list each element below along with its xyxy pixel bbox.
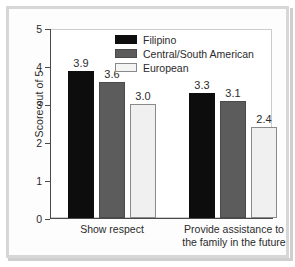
legend-label-filipino: Filipino — [143, 34, 176, 46]
bar-value-g1-central-south-american: 3.1 — [220, 87, 246, 99]
bar-g0-filipino — [68, 71, 94, 218]
bar-g1-european — [251, 127, 277, 218]
x-axis-group-label-1: Provide assistance to the family in the … — [175, 223, 293, 249]
bar-value-g0-filipino: 3.9 — [68, 57, 94, 69]
x-axis-group-label-0: Show respect — [54, 223, 170, 236]
bar-g1-filipino — [189, 93, 215, 218]
legend-swatch-european-icon — [115, 63, 137, 72]
legend: Filipino Central/South American European — [115, 33, 254, 75]
y-axis-tick-4: 4 — [12, 61, 50, 73]
figure-frame: Score out of 5 0 1 2 3 4 5 3.9 — [0, 0, 295, 267]
y-axis-tick-0: 0 — [12, 213, 50, 225]
legend-label-european: European — [143, 62, 189, 74]
bar-chart: Score out of 5 0 1 2 3 4 5 3.9 — [12, 12, 283, 252]
y-axis-tick-3: 3 — [12, 99, 50, 111]
legend-item-filipino: Filipino — [115, 33, 254, 46]
bar-value-g0-european: 3.0 — [130, 90, 156, 102]
legend-item-european: European — [115, 61, 254, 74]
y-axis-tick-label-1: 1 — [18, 175, 42, 187]
y-axis-tick-label-0: 0 — [18, 213, 42, 225]
bar-value-g1-european: 2.4 — [251, 113, 277, 125]
x-axis-line — [50, 218, 273, 219]
frame-shadow-bottom — [8, 258, 293, 261]
y-axis-line — [50, 29, 51, 219]
legend-label-central-south-american: Central/South American — [143, 48, 254, 60]
bar-g1-central-south-american — [220, 101, 246, 218]
bar-g0-european — [130, 104, 156, 218]
y-axis-tick-1: 1 — [12, 175, 50, 187]
legend-swatch-central-south-american-icon — [115, 49, 137, 58]
bar-g0-central-south-american — [99, 82, 125, 218]
legend-swatch-filipino-icon — [115, 35, 137, 44]
y-axis-tick-label-4: 4 — [18, 61, 42, 73]
y-axis-tick-mark-1 — [45, 181, 50, 182]
y-axis-tick-label-5: 5 — [18, 23, 42, 35]
y-axis-tick-mark-4 — [45, 67, 50, 68]
y-axis-tick-mark-2 — [45, 143, 50, 144]
y-axis-tick-2: 2 — [12, 137, 50, 149]
y-axis-tick-label-2: 2 — [18, 137, 42, 149]
y-axis-tick-mark-0 — [45, 219, 50, 220]
y-axis-tick-mark-5 — [45, 29, 50, 30]
legend-item-central-south-american: Central/South American — [115, 47, 254, 60]
bar-value-g1-filipino: 3.3 — [189, 79, 215, 91]
y-axis-tick-mark-3 — [45, 105, 50, 106]
y-axis-tick-label-3: 3 — [18, 99, 42, 111]
y-axis-tick-5: 5 — [12, 23, 50, 35]
